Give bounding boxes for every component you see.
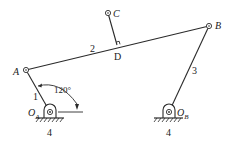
- link-3-OB-B: [169, 26, 209, 112]
- linkage-diagram: A B C D 2 3 1 120° OA OB 4 4: [0, 0, 232, 147]
- label-ground-left: 4: [47, 127, 52, 138]
- label-A: A: [12, 66, 20, 77]
- angle-arrow-bottom: [75, 104, 79, 110]
- label-link-2: 2: [90, 43, 95, 54]
- ground-pivot-OA: [36, 104, 64, 122]
- label-angle: 120°: [54, 85, 72, 95]
- joint-B: [206, 23, 211, 28]
- link-2-AB: [26, 26, 209, 70]
- label-link-1: 1: [33, 91, 38, 102]
- label-OA: OA: [28, 107, 40, 121]
- joint-C: [105, 10, 110, 15]
- label-B: B: [215, 20, 221, 31]
- label-OB: OB: [177, 107, 189, 121]
- label-ground-right: 4: [166, 127, 171, 138]
- label-D: D: [114, 51, 121, 62]
- joint-A: [23, 67, 28, 72]
- label-C: C: [113, 8, 120, 19]
- label-link-3: 3: [192, 65, 197, 76]
